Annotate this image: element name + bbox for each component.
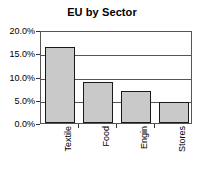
y-axis-tick-label: 15.0% [9, 50, 35, 59]
x-axis-tick-mark [78, 124, 79, 128]
x-axis-tick-mark [116, 124, 117, 128]
y-axis-tick-mark [36, 124, 40, 125]
bar-chart: EU by Sector 0.0%5.0%10.0%15.0%20.0% Tex… [0, 0, 204, 172]
x-axis-tick-labels: TextileFoodEnginStores [40, 126, 192, 172]
bar [45, 47, 75, 123]
x-axis-tick-label: Engin [139, 126, 149, 149]
x-axis-tick-label-text: Food [101, 126, 111, 147]
x-axis-tick-label-text: Stores [177, 126, 187, 152]
y-axis-tick-label: 20.0% [9, 27, 35, 36]
y-axis-tick-labels: 0.0%5.0%10.0%15.0%20.0% [0, 31, 38, 124]
chart-title: EU by Sector [0, 6, 204, 18]
y-axis-tick-label: 5.0% [14, 96, 35, 105]
y-axis-tick-label: 0.0% [14, 120, 35, 129]
x-axis-tick-label: Stores [177, 126, 187, 152]
y-axis-tick-mark [36, 54, 40, 55]
bar [83, 82, 113, 123]
bar-series [41, 32, 191, 123]
x-axis-tick-label: Textile [63, 126, 73, 152]
y-axis-tick-label: 10.0% [9, 73, 35, 82]
bar [159, 102, 189, 123]
x-axis-tick-label-text: Textile [63, 126, 73, 152]
bar [121, 91, 151, 123]
y-axis-tick-mark [36, 101, 40, 102]
plot-area [40, 31, 192, 124]
y-axis-tick-mark [36, 31, 40, 32]
x-axis-tick-label-text: Engin [139, 126, 149, 149]
y-axis-tick-mark [36, 78, 40, 79]
x-axis-tick-mark [154, 124, 155, 128]
x-axis-tick-label: Food [101, 126, 111, 147]
